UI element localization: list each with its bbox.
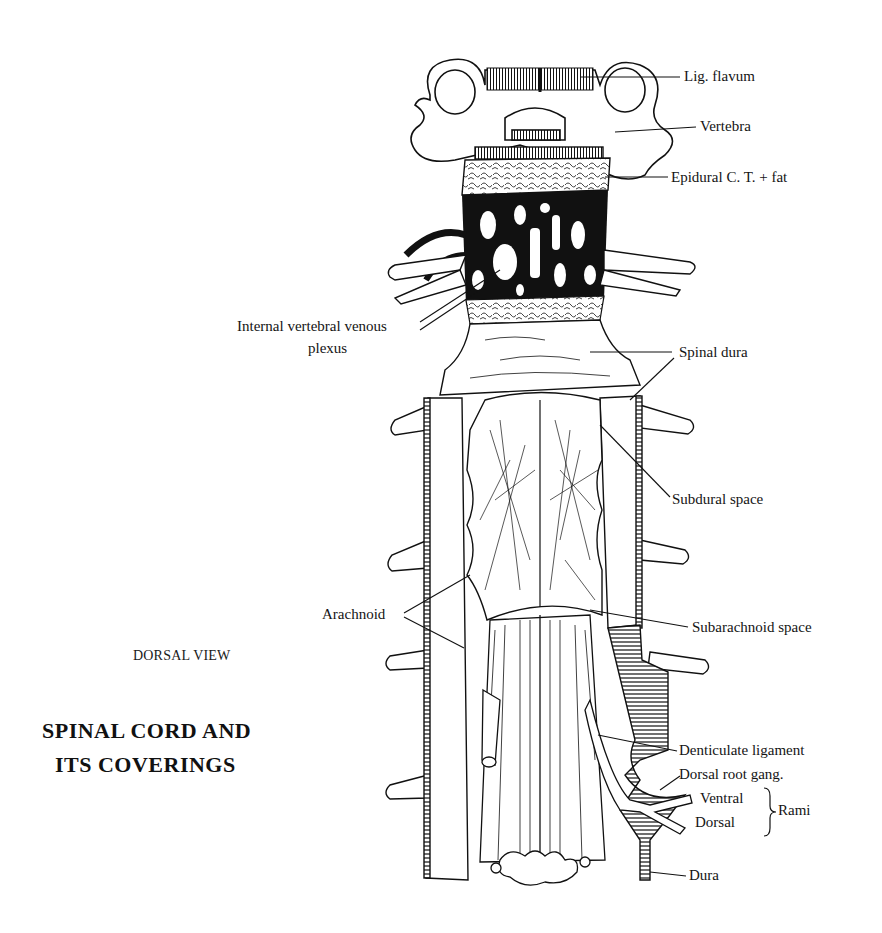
epidural-tissue: [462, 147, 610, 195]
label-lig-flavum: Lig. flavum: [684, 68, 755, 85]
label-rami: Rami: [778, 802, 811, 819]
label-spinal-dura: Spinal dura: [679, 344, 748, 361]
arachnoid: [467, 393, 602, 621]
rami-brace-icon: [764, 788, 776, 836]
label-arachnoid: Arachnoid: [322, 606, 385, 623]
label-vertebra: Vertebra: [700, 118, 751, 135]
ligamentum-flavum: [487, 68, 593, 92]
label-dura: Dura: [689, 867, 719, 884]
venous-plexus: [406, 190, 608, 324]
leader-drg: [660, 776, 680, 790]
label-epidural: Epidural C. T. + fat: [671, 169, 787, 186]
label-dorsal-root-ganglion: Dorsal root gang.: [679, 766, 784, 783]
label-venous-plexus-line1: Internal vertebral venous: [237, 318, 387, 335]
label-ventral-ramus: Ventral: [700, 790, 743, 807]
spinal-cord-illustration: [0, 0, 882, 933]
label-subdural-space: Subdural space: [672, 491, 763, 508]
view-caption: DORSAL VIEW: [133, 648, 230, 664]
label-dorsal-ramus: Dorsal: [695, 814, 735, 831]
figure-title-line1: SPINAL CORD AND: [42, 716, 251, 746]
label-venous-plexus-line2: plexus: [308, 340, 347, 357]
label-subarachnoid-space: Subarachnoid space: [692, 619, 812, 636]
label-denticulate-ligament: Denticulate ligament: [679, 742, 804, 759]
leader-dura: [650, 872, 686, 876]
figure-title-line2: ITS COVERINGS: [55, 750, 236, 780]
